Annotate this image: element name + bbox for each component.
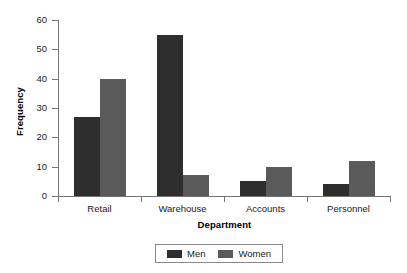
legend-label-men: Men — [187, 249, 205, 259]
legend-entry-women: Women — [218, 249, 271, 259]
y-axis-tick-label: 10 — [7, 162, 47, 172]
legend-swatch-men-icon — [167, 250, 182, 258]
x-axis-tick — [224, 196, 225, 202]
y-axis-tick-label: 40 — [7, 74, 47, 84]
bar-group — [307, 20, 390, 196]
bar-warehouse-women — [183, 175, 209, 196]
legend-swatch-women-icon — [218, 250, 233, 258]
x-axis-tick-label-warehouse: Warehouse — [141, 203, 224, 214]
x-axis-tick — [390, 196, 391, 202]
y-axis-tick-label: 60 — [7, 15, 47, 25]
bar-accounts-women — [266, 167, 292, 196]
x-axis-title: Department — [58, 219, 391, 230]
x-axis-tick-label-personnel: Personnel — [307, 203, 390, 214]
chart-legend: MenWomen — [155, 244, 283, 263]
legend-entry-men: Men — [167, 249, 205, 259]
x-axis-tick — [58, 196, 59, 202]
y-axis-tick-label: 30 — [7, 103, 47, 113]
x-axis-tick-label-retail: Retail — [58, 203, 141, 214]
bar-group — [58, 20, 141, 196]
y-axis-tick-label: 20 — [7, 132, 47, 142]
x-axis-tick — [141, 196, 142, 202]
y-axis-tick-label: 0 — [7, 191, 47, 201]
bar-chart: Frequency 0102030405060 RetailWarehouseA… — [0, 0, 407, 273]
bar-group — [141, 20, 224, 196]
bar-group — [224, 20, 307, 196]
x-axis-tick — [307, 196, 308, 202]
bar-personnel-men — [323, 184, 349, 196]
legend-label-women: Women — [238, 249, 271, 259]
y-axis-tick-label: 50 — [7, 44, 47, 54]
bar-personnel-women — [349, 161, 375, 196]
x-axis-tick-label-accounts: Accounts — [224, 203, 307, 214]
bar-warehouse-men — [157, 35, 183, 196]
bar-retail-men — [74, 117, 100, 196]
bar-accounts-men — [240, 181, 266, 196]
plot-area — [58, 20, 390, 196]
bar-retail-women — [100, 79, 126, 196]
